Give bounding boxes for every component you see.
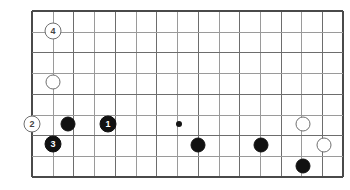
grid-line-horizontal <box>32 176 343 178</box>
stone-move-number: 1 <box>105 120 110 129</box>
grid-line-horizontal <box>32 156 343 157</box>
stone-black-move-1[interactable]: 1 <box>100 116 117 133</box>
stone-move-number: 3 <box>50 140 55 149</box>
stone-white[interactable] <box>46 75 61 90</box>
go-board-diagram: 4213 <box>0 0 350 190</box>
goban-grid: 4213 <box>0 0 350 190</box>
grid-line-horizontal <box>32 32 343 33</box>
grid-line-horizontal <box>32 135 343 136</box>
grid-line-horizontal <box>32 10 343 12</box>
grid-line-horizontal <box>32 52 343 53</box>
stone-white-move-4[interactable]: 4 <box>45 23 62 40</box>
stone-move-number: 2 <box>29 120 34 129</box>
stone-black[interactable] <box>61 117 76 132</box>
stone-black[interactable] <box>191 138 206 153</box>
grid-line-horizontal <box>32 115 343 116</box>
stone-white[interactable] <box>296 117 311 132</box>
grid-line-horizontal <box>32 73 343 74</box>
stone-black[interactable] <box>254 138 269 153</box>
grid-line-horizontal <box>32 94 343 95</box>
stone-white-move-2[interactable]: 2 <box>24 116 41 133</box>
stone-move-number: 4 <box>50 27 55 36</box>
stone-white[interactable] <box>317 138 332 153</box>
stone-black-move-3[interactable]: 3 <box>45 136 62 153</box>
stone-black[interactable] <box>296 159 311 174</box>
hoshi-star-point <box>176 121 182 127</box>
